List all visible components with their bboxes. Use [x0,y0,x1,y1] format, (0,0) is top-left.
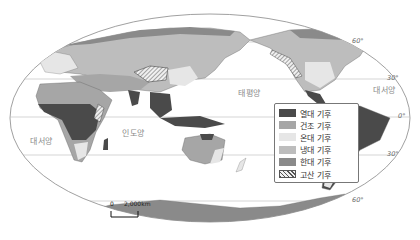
legend-label: 고산 기후 [300,169,331,180]
ocean-label-atlantic-east: 대서양 [373,84,396,95]
legend-label: 건조 기후 [300,120,331,131]
swatch-cold-icon [279,146,296,154]
scale-bar-icon [110,209,150,219]
legend-item-dry: 건조 기후 [279,119,354,131]
swatch-highland-icon [279,170,296,178]
swatch-polar-icon [279,158,296,166]
ocean-label-atlantic-west: 대서양 [30,135,53,146]
legend-item-tropical: 열대 기후 [279,107,354,119]
scale-start: 0 [110,200,114,207]
lat-label-30n: 30° [387,74,399,82]
legend: 열대 기후 건조 기후 온대 기후 냉대 기후 한대 기후 고산 기후 [274,103,359,183]
legend-item-polar: 한대 기후 [279,156,354,168]
lat-label-60s: 60° [352,196,364,204]
ocean-label-pacific: 태평양 [238,87,261,98]
swatch-dry-icon [279,121,296,129]
legend-label: 열대 기후 [300,108,331,119]
legend-item-cold: 냉대 기후 [279,144,354,156]
legend-label: 냉대 기후 [300,144,331,155]
swatch-temperate-icon [279,133,296,141]
scale-end: 2,000km [124,200,151,207]
legend-label: 한대 기후 [300,156,331,167]
swatch-tropical-icon [279,109,296,117]
lat-label-60n: 60° [352,37,364,45]
legend-item-temperate: 온대 기후 [279,131,354,143]
lat-label-30s: 30° [387,150,399,158]
lat-label-0: 0° [398,112,405,120]
legend-label: 온대 기후 [300,132,331,143]
legend-item-highland: 고산 기후 [279,168,354,180]
scale-bar: 0 2,000km [110,204,150,214]
ocean-label-indian: 인도양 [122,127,145,138]
